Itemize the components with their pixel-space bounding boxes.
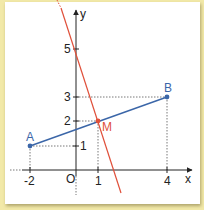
coordinate-plane: y x O -2 1 4 1 2 3 5 A B M [0,0,204,210]
y-tick-1: 1 [80,139,87,153]
point-m [96,119,101,124]
y-tick-2: 2 [64,114,71,128]
y-tick-5: 5 [64,42,71,56]
red-line-ext [57,0,61,8]
point-b-label: B [164,81,172,95]
x-axis-label: x [185,172,191,186]
point-a-label: A [26,130,34,144]
x-tick-4: 4 [164,174,171,188]
point-m-label: M [102,120,112,134]
point-a [28,144,33,149]
y-tick-3: 3 [64,90,71,104]
x-tick-neg2: -2 [24,174,35,188]
origin-label: O [66,172,75,186]
y-axis-label: y [80,7,86,21]
point-b [165,95,170,100]
x-tick-1: 1 [95,174,102,188]
